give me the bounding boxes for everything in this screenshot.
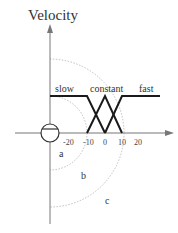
constant-membership-line [87,96,122,133]
set-label-fast: fast [139,83,154,94]
tick-label: 20 [134,138,142,147]
constant-membership-triangle [87,96,122,133]
region-label-a: a [59,148,64,159]
vehicle-icon [41,124,59,142]
tick-label: -10 [83,138,94,147]
tick-label: -20 [63,138,74,147]
horizontal-axis-arrow-icon [165,130,174,136]
fast-membership-line [105,96,160,133]
region-label-c: c [105,195,110,206]
set-label-constant: constant [90,83,124,94]
region-label-b: b [81,170,86,181]
set-label-slow: slow [55,83,75,94]
tick-label: 10 [118,138,126,147]
velocity-fuzzy-diagram: Velocity slow constant fast -20 -10 0 10… [0,0,178,233]
axis-title: Velocity [28,7,78,23]
tick-label: 0 [103,138,107,147]
